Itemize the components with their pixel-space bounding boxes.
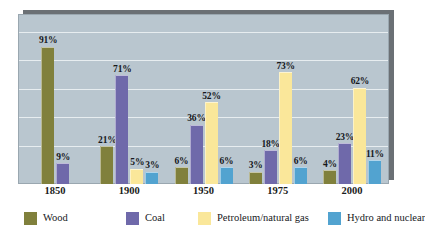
bar-group-1850: 91%9% <box>41 14 69 184</box>
bar-group-2000: 4%23%62%11% <box>323 14 381 184</box>
bar-highlight <box>57 163 69 164</box>
bar-highlight <box>354 88 366 89</box>
x-tick-1850: 1850 <box>45 186 66 197</box>
legend-item-petroleum-natural-gas[interactable]: Petroleum/natural gas <box>198 210 309 226</box>
bar-value-label: 36% <box>187 114 205 124</box>
bar-value-label: 23% <box>336 133 354 143</box>
bar-coal-1900: 71% <box>115 75 128 184</box>
bar-highlight <box>116 75 128 76</box>
legend-item-coal[interactable]: Coal <box>126 210 165 226</box>
legend-item-wood[interactable]: Wood <box>24 210 68 226</box>
bar-value-label: 73% <box>276 62 294 72</box>
bar-value-label: 52% <box>202 92 220 102</box>
bar-value-label: 3% <box>249 161 263 171</box>
bar-highlight <box>221 167 233 168</box>
bar-wood-2000: 4% <box>323 170 336 184</box>
bar-value-label: 6% <box>220 157 234 167</box>
bar-group-1950: 6%36%52%6% <box>175 14 233 184</box>
bar-highlight <box>146 172 158 173</box>
bar-group-1975: 3%18%73%6% <box>249 14 307 184</box>
bar-highlight <box>101 146 113 147</box>
bar-value-label: 62% <box>351 77 369 87</box>
x-tick-2000: 2000 <box>341 186 362 197</box>
bar-petroleum-natural-gas-1900: 5% <box>130 169 143 184</box>
legend-label: Hydro and nuclear <box>347 213 425 224</box>
bar-highlight <box>42 47 54 48</box>
bar-hydro-and-nuclear-1950: 6% <box>220 167 233 184</box>
bar-value-label: 6% <box>294 157 308 167</box>
legend-item-hydro-and-nuclear[interactable]: Hydro and nuclear <box>328 210 425 226</box>
bar-coal-2000: 23% <box>338 143 351 184</box>
bar-petroleum-natural-gas-1975: 73% <box>279 72 292 184</box>
bar-highlight <box>295 167 307 168</box>
legend-label: Coal <box>145 213 165 224</box>
bar-highlight <box>324 170 336 171</box>
bar-value-label: 18% <box>261 140 279 150</box>
bar-coal-1950: 36% <box>190 125 203 184</box>
legend-swatch-icon <box>24 212 37 225</box>
bar-value-label: 9% <box>56 153 70 163</box>
bar-highlight <box>265 150 277 151</box>
legend-label: Wood <box>43 213 68 224</box>
bar-value-label: 3% <box>145 161 159 171</box>
x-tick-1975: 1975 <box>267 186 288 197</box>
bar-highlight <box>176 167 188 168</box>
bar-petroleum-natural-gas-2000: 62% <box>353 88 366 184</box>
bar-highlight <box>339 143 351 144</box>
bar-hydro-and-nuclear-2000: 11% <box>368 160 381 184</box>
bar-highlight <box>280 72 292 73</box>
legend-swatch-icon <box>328 212 341 225</box>
bar-group-1900: 21%71%5%3% <box>100 14 158 184</box>
bar-highlight <box>131 169 143 170</box>
bar-wood-1900: 21% <box>100 146 113 184</box>
bar-value-label: 71% <box>113 65 131 75</box>
bar-value-label: 6% <box>175 157 189 167</box>
x-axis-tick-labels: 18501900195019752000 <box>18 186 389 201</box>
bar-coal-1975: 18% <box>264 150 277 184</box>
bar-wood-1950: 6% <box>175 167 188 184</box>
bar-wood-1850: 91% <box>41 47 54 184</box>
bars-layer: 91%9%21%71%5%3%6%36%52%6%3%18%73%6%4%23%… <box>18 14 389 184</box>
bar-hydro-and-nuclear-1975: 6% <box>294 167 307 184</box>
bar-petroleum-natural-gas-1950: 52% <box>205 102 218 184</box>
bar-highlight <box>206 102 218 103</box>
bar-value-label: 4% <box>323 160 337 170</box>
x-tick-1900: 1900 <box>119 186 140 197</box>
bar-value-label: 5% <box>130 158 144 168</box>
bar-coal-1850: 9% <box>56 163 69 184</box>
legend-swatch-icon <box>198 212 211 225</box>
legend-label: Petroleum/natural gas <box>217 213 309 224</box>
bar-value-label: 11% <box>366 150 384 160</box>
bar-hydro-and-nuclear-1900: 3% <box>145 172 158 184</box>
bar-highlight <box>369 160 381 161</box>
bar-wood-1975: 3% <box>249 172 262 184</box>
bar-value-label: 21% <box>98 136 116 146</box>
chart-legend: WoodCoalPetroleum/natural gasHydro and n… <box>18 210 403 230</box>
bar-highlight <box>191 125 203 126</box>
legend-swatch-icon <box>126 212 139 225</box>
x-tick-1950: 1950 <box>193 186 214 197</box>
bar-value-label: 91% <box>39 36 57 46</box>
bar-highlight <box>250 172 262 173</box>
